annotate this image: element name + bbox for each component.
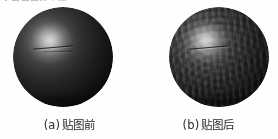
- sphere-untextured: [13, 7, 113, 107]
- sphere-stage-a: [13, 7, 113, 107]
- sphere-contact-shadow: [181, 94, 257, 107]
- sphere-contact-shadow: [25, 94, 101, 107]
- caption-panel-a: (a)贴图前: [0, 116, 139, 134]
- sphere-limb-darkening: [169, 7, 269, 107]
- figure-container: 字面面面分布图: [0, 0, 278, 139]
- caption-panel-b: (b)贴图后: [139, 116, 278, 134]
- sphere-stage-b: [169, 7, 269, 107]
- caption-a-text: 贴图前: [62, 118, 95, 132]
- caption-b-text: 贴图后: [201, 118, 234, 132]
- sphere-textured: [169, 7, 269, 107]
- sphere-limb-darkening: [13, 7, 113, 107]
- caption-b-label: (b): [183, 118, 200, 132]
- caption-a-label: (a): [44, 118, 61, 132]
